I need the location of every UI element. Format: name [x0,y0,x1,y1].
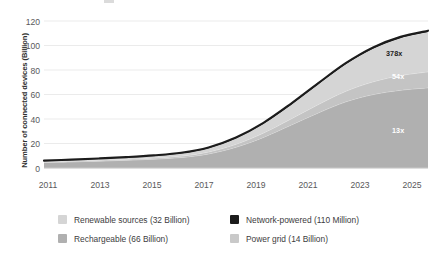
legend-item-network-powered[interactable]: Network-powered (110 Million) [230,215,434,225]
x-tick-2023: 2023 [340,180,380,190]
y-tick-80: 80 [14,66,40,76]
legend-label-renewable-sources: Renewable sources (32 Billion) [74,215,189,225]
y-tick-120: 120 [14,17,40,27]
legend-swatch-rechargeable-icon [58,234,67,243]
x-tick-2019: 2019 [236,180,276,190]
legend-swatch-network-icon [230,215,239,224]
x-tick-2013: 2013 [80,180,120,190]
y-tick-40: 40 [14,115,40,125]
y-tick-20: 20 [14,139,40,149]
legend-item-rechargeable[interactable]: Rechargeable (66 Billion) [58,234,230,244]
annotation-13x: 13x [392,126,404,135]
y-tick-60: 60 [14,90,40,100]
legend-label-network-powered: Network-powered (110 Million) [246,215,359,225]
y-tick-0: 0 [14,164,40,174]
annotation-378x: 378x [386,49,402,58]
legend-item-power-grid[interactable]: Power grid (14 Billion) [230,234,434,244]
legend-label-power-grid: Power grid (14 Billion) [246,234,328,244]
chart-legend: Renewable sources (32 Billion) Network-p… [58,210,434,248]
legend-label-rechargeable: Rechargeable (66 Billion) [74,234,168,244]
x-tick-2017: 2017 [184,180,224,190]
legend-item-renewable-sources[interactable]: Renewable sources (32 Billion) [58,215,230,225]
legend-swatch-powergrid-icon [230,234,239,243]
y-tick-100: 100 [14,41,40,51]
legend-swatch-renewable-icon [58,215,67,224]
x-tick-2015: 2015 [132,180,172,190]
x-tick-2025: 2025 [392,180,432,190]
plot-area: Number of connected devices (Billion) 12… [0,0,446,200]
stacked-area-chart: Number of connected devices (Billion) 12… [0,0,446,261]
x-tick-2021: 2021 [288,180,328,190]
plot-canvas [0,0,446,200]
annotation-54x: 54x [392,72,404,81]
x-tick-2011: 2011 [28,180,68,190]
